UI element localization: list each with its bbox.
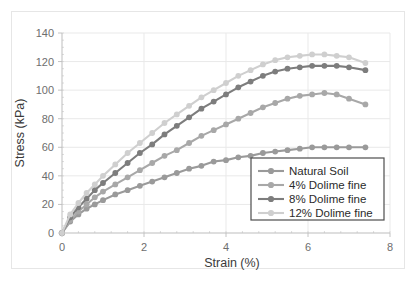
- legend-marker: [268, 182, 274, 188]
- data-point: [322, 90, 328, 96]
- data-point: [125, 174, 131, 180]
- data-point: [235, 116, 241, 122]
- chart-plot-area: 020406080100120140 02468 Stress (kPa) St…: [0, 0, 418, 283]
- data-point: [84, 202, 90, 208]
- data-point: [346, 64, 352, 70]
- data-point: [112, 192, 118, 198]
- data-point: [248, 110, 254, 116]
- x-tick-label: 2: [141, 241, 147, 253]
- data-point: [223, 80, 229, 86]
- data-point: [322, 144, 328, 150]
- data-point: [125, 187, 131, 193]
- x-tick-label: 6: [305, 241, 311, 253]
- data-point: [174, 123, 180, 129]
- data-point: [162, 174, 168, 180]
- y-tick-label: 40: [42, 170, 54, 182]
- data-point: [285, 54, 291, 60]
- data-point: [363, 67, 369, 73]
- data-point: [334, 53, 340, 59]
- data-point: [100, 173, 106, 179]
- data-point: [125, 150, 131, 156]
- x-axis-title: Strain (%): [204, 256, 260, 270]
- data-point: [260, 73, 266, 79]
- data-point: [199, 94, 205, 100]
- data-point: [100, 197, 106, 203]
- data-point: [248, 79, 254, 85]
- data-point: [112, 170, 118, 176]
- data-point: [334, 144, 340, 150]
- data-point: [346, 54, 352, 60]
- legend-marker: [268, 168, 274, 174]
- data-point: [211, 87, 217, 93]
- data-point: [100, 189, 106, 195]
- data-point: [272, 69, 278, 75]
- data-point: [334, 63, 340, 69]
- data-point: [309, 63, 315, 69]
- data-point: [248, 67, 254, 73]
- data-point: [223, 122, 229, 128]
- data-point: [137, 140, 143, 146]
- data-point: [297, 53, 303, 59]
- y-tick-label: 0: [48, 227, 54, 239]
- data-point: [149, 160, 155, 166]
- data-point: [322, 63, 328, 69]
- data-point: [346, 144, 352, 150]
- data-point: [260, 62, 266, 68]
- y-tick-label: 20: [42, 198, 54, 210]
- data-point: [309, 92, 315, 98]
- data-point: [137, 167, 143, 173]
- data-point: [137, 150, 143, 156]
- data-point: [297, 64, 303, 70]
- data-point: [186, 166, 192, 172]
- data-point: [174, 147, 180, 153]
- data-point: [174, 112, 180, 118]
- data-point: [223, 157, 229, 163]
- chart-legend: Natural Soil4% Dolime fine8% Dolime fine…: [251, 158, 384, 220]
- y-tick-label: 120: [36, 56, 54, 68]
- data-point: [235, 154, 241, 160]
- data-point: [363, 60, 369, 66]
- data-point: [67, 212, 73, 218]
- data-point: [260, 150, 266, 156]
- data-point: [199, 133, 205, 139]
- data-point: [92, 182, 98, 188]
- y-tick-label: 60: [42, 141, 54, 153]
- data-point: [112, 182, 118, 188]
- data-point: [100, 180, 106, 186]
- y-axis-title: Stress (kPa): [13, 99, 27, 168]
- data-point: [174, 170, 180, 176]
- x-axis-tick-labels: 02468: [59, 241, 393, 253]
- data-point: [363, 144, 369, 150]
- data-point: [272, 57, 278, 63]
- data-point: [346, 96, 352, 102]
- data-point: [211, 159, 217, 165]
- data-point: [162, 120, 168, 126]
- data-point: [92, 187, 98, 193]
- data-point: [162, 132, 168, 138]
- data-point: [235, 84, 241, 90]
- data-point: [334, 92, 340, 98]
- data-point: [59, 230, 65, 236]
- legend-label: 12% Dolime fine: [289, 207, 373, 219]
- y-axis-tick-labels: 020406080100120140: [36, 27, 54, 239]
- data-point: [272, 149, 278, 155]
- y-tick-label: 100: [36, 84, 54, 96]
- data-point: [285, 66, 291, 72]
- legend-label: 4% Dolime fine: [289, 179, 366, 191]
- data-point: [186, 103, 192, 109]
- legend-label: 8% Dolime fine: [289, 193, 366, 205]
- data-point: [149, 179, 155, 185]
- data-point: [112, 162, 118, 168]
- data-point: [260, 104, 266, 110]
- legend-label: Natural Soil: [289, 165, 348, 177]
- x-tick-label: 0: [59, 241, 65, 253]
- data-point: [285, 147, 291, 153]
- data-point: [322, 52, 328, 58]
- data-point: [199, 106, 205, 112]
- data-point: [211, 127, 217, 133]
- x-tick-label: 4: [223, 241, 229, 253]
- data-point: [223, 92, 229, 98]
- data-point: [84, 190, 90, 196]
- data-point: [149, 142, 155, 148]
- data-point: [309, 144, 315, 150]
